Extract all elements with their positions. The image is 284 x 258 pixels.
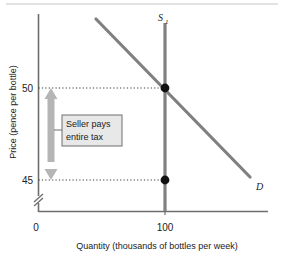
y-axis-title: Price (pence per bottle) (8, 65, 18, 159)
x-tick-label-100: 100 (157, 222, 174, 233)
y-tick-label-50: 50 (22, 83, 34, 94)
supply-curve-label: S (158, 12, 163, 23)
marker-equilibrium-with-tax (161, 84, 170, 93)
x-tick-label-0: 0 (33, 222, 39, 233)
demand-curve (96, 19, 250, 177)
annotation-line-1: Seller pays (66, 119, 111, 129)
economics-tax-incidence-chart: Seller pays entire tax 50 45 0 100 S 1 D… (0, 0, 284, 258)
x-axis-title: Quantity (thousands of bottles per week) (76, 241, 238, 251)
demand-curve-label: D (255, 181, 264, 192)
marker-seller-net-price (161, 176, 170, 185)
seller-pays-entire-tax-annotation: Seller pays entire tax (54, 115, 122, 146)
tax-incidence-arrow (45, 88, 58, 180)
supply-curve-label-subscript: 1 (165, 18, 169, 26)
y-tick-label-45: 45 (22, 175, 34, 186)
annotation-line-2: entire tax (66, 132, 104, 142)
